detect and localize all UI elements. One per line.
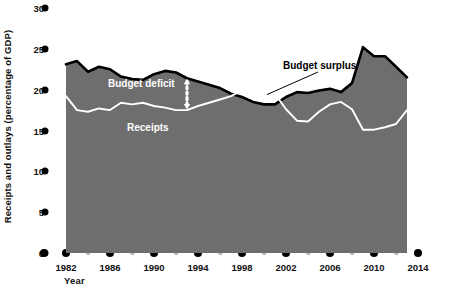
chart-figure: Receipts and outlays (percentage of GDP)…: [0, 0, 473, 297]
annotation-outlays: Outlays: [125, 45, 162, 56]
annotation-budget-surplus: Budget surplus: [283, 60, 356, 71]
annotation-budget-deficit: Budget deficit: [108, 78, 175, 89]
x-axis-title: Year: [64, 275, 85, 286]
area-chart-plot: [0, 0, 473, 297]
annotation-receipts: Receipts: [127, 122, 169, 133]
